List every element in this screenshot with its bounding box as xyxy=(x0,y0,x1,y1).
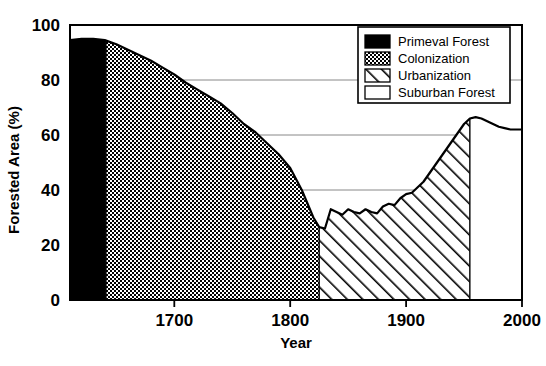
y-tick-label: 60 xyxy=(41,126,60,145)
legend-swatch-white xyxy=(365,86,390,99)
chart-legend: Primeval ForestColonizationUrbanizationS… xyxy=(358,27,510,103)
x-tick-label: 2000 xyxy=(503,311,541,330)
x-tick-label: 1900 xyxy=(387,311,425,330)
y-axis-title: Forested Area (%) xyxy=(5,106,22,234)
area-region-primeval-forest xyxy=(70,39,106,300)
legend-swatch-solid-black xyxy=(365,35,390,48)
legend-label: Urbanization xyxy=(398,68,471,83)
y-tick-label: 20 xyxy=(41,236,60,255)
legend-swatch-dotted xyxy=(365,52,390,65)
y-tick-label: 100 xyxy=(32,16,60,35)
y-tick-label: 0 xyxy=(51,291,60,310)
legend-label: Colonization xyxy=(398,51,470,66)
legend-swatch-diagonal-hatch xyxy=(365,69,390,82)
area-region-suburban-forest xyxy=(470,117,522,300)
legend-label: Suburban Forest xyxy=(398,85,495,100)
x-tick-label: 1700 xyxy=(155,311,193,330)
x-axis-title: Year xyxy=(280,334,312,351)
legend-label: Primeval Forest xyxy=(398,34,489,49)
chart-canvas: 020406080100 1700180019002000 Year Fores… xyxy=(0,0,546,366)
forested-area-chart: 020406080100 1700180019002000 Year Fores… xyxy=(0,0,546,366)
y-tick-label: 40 xyxy=(41,181,60,200)
x-tick-label: 1800 xyxy=(271,311,309,330)
y-tick-label: 80 xyxy=(41,71,60,90)
